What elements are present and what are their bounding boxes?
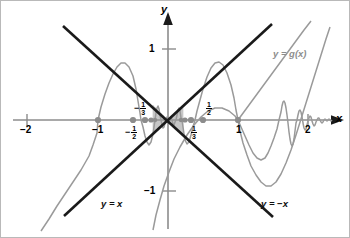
fraction-one-third: 1 3 bbox=[140, 101, 146, 117]
line-label-y-equals-x: y = x bbox=[101, 199, 122, 209]
fraction-numerator: 1 bbox=[131, 125, 137, 133]
curve-label-g-of-x: y = g(x) bbox=[273, 49, 307, 59]
minus-sign: − bbox=[125, 128, 130, 137]
zero-dot-neg-half bbox=[130, 117, 136, 123]
x-tick-label-pos2: 2 bbox=[305, 125, 311, 135]
zero-dot-neg-1 bbox=[95, 117, 101, 123]
zero-dot-pos-third bbox=[188, 117, 194, 123]
plot-area bbox=[1, 1, 350, 238]
x-tick-label-neg1: −1 bbox=[92, 125, 103, 135]
y-tick-label-pos1: 1 bbox=[149, 44, 155, 54]
y-tick-label-neg1: −1 bbox=[144, 186, 155, 196]
figure-canvas: x y −2 −1 1 2 1 −1 − 1 2 − 1 3 1 3 1 2 bbox=[0, 0, 350, 238]
x-tick-label-neg-one-third: − 1 3 bbox=[134, 101, 146, 117]
zero-dot-neg-fifth bbox=[153, 118, 157, 122]
x-tick-label-pos-one-half: 1 2 bbox=[205, 101, 212, 117]
fraction-denominator: 2 bbox=[206, 109, 212, 116]
minus-sign: − bbox=[134, 104, 139, 113]
line-label-y-equals-minus-x: y = −x bbox=[261, 199, 288, 209]
fraction-one-half: 1 2 bbox=[206, 101, 212, 117]
zero-dot-pos-1 bbox=[235, 117, 241, 123]
fraction-denominator: 3 bbox=[191, 133, 197, 140]
fraction-one-half: 1 2 bbox=[131, 125, 137, 141]
fraction-numerator: 1 bbox=[206, 101, 212, 109]
zero-dot-pos-half bbox=[200, 117, 206, 123]
fraction-numerator: 1 bbox=[191, 125, 197, 133]
fraction-one-third: 1 3 bbox=[191, 125, 197, 141]
curve-g-right-branch bbox=[238, 21, 311, 120]
fraction-denominator: 3 bbox=[140, 109, 146, 116]
x-tick-label-neg2: −2 bbox=[20, 125, 31, 135]
x-tick-label-pos1: 1 bbox=[236, 125, 242, 135]
x-tick-label-neg-one-half: − 1 2 bbox=[125, 125, 137, 141]
fraction-numerator: 1 bbox=[140, 101, 146, 109]
x-tick-label-pos-one-third: 1 3 bbox=[190, 125, 197, 141]
fraction-denominator: 2 bbox=[131, 133, 137, 140]
y-axis-label: y bbox=[161, 4, 167, 15]
zero-dot-pos-quarter bbox=[182, 117, 187, 122]
zero-dot-neg-third bbox=[142, 117, 148, 123]
x-axis-label: x bbox=[336, 113, 342, 124]
